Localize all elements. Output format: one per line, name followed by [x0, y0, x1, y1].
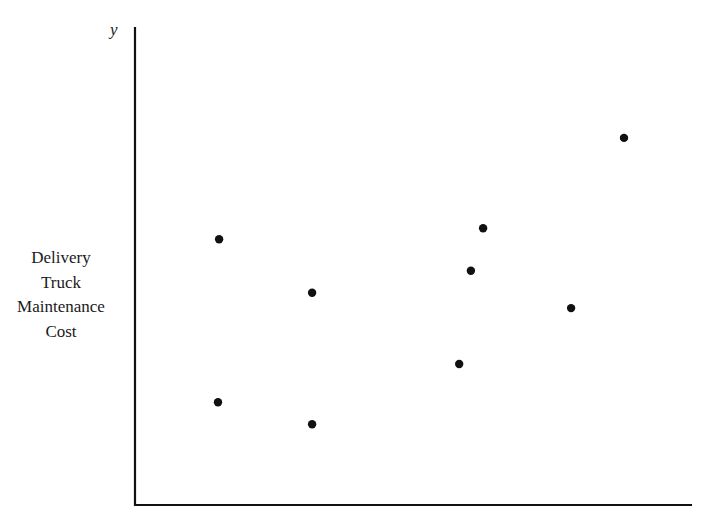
data-point: [567, 304, 575, 312]
data-point: [308, 420, 316, 428]
data-point: [467, 267, 475, 275]
scatter-plot: [0, 0, 711, 518]
data-points: [214, 134, 628, 429]
data-point: [479, 224, 487, 232]
data-point: [215, 235, 223, 243]
data-point: [308, 289, 316, 297]
data-point: [455, 360, 463, 368]
data-point: [214, 398, 222, 406]
data-point: [620, 134, 628, 142]
